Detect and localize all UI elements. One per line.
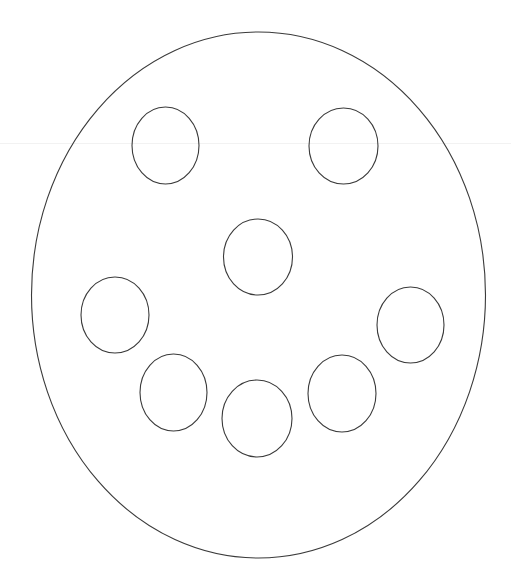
- face-drawing-canvas: [0, 0, 511, 583]
- background: [0, 0, 511, 583]
